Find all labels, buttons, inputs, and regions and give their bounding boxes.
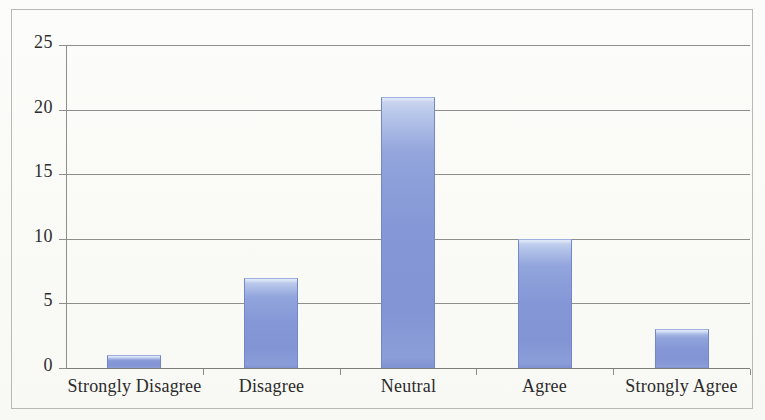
bar-strongly-agree: [655, 329, 709, 368]
y-tick-label: 25: [0, 32, 53, 53]
y-tick-mark: [59, 110, 66, 111]
y-tick-label: 15: [0, 161, 53, 182]
x-category-label: Strongly Agree: [613, 376, 750, 397]
x-tick-mark: [340, 369, 341, 375]
y-tick-mark: [59, 303, 66, 304]
y-tick-label: 5: [0, 290, 53, 311]
x-tick-mark: [750, 369, 751, 375]
x-category-label: Neutral: [340, 376, 477, 397]
y-tick-mark: [59, 45, 66, 46]
gridline: [66, 368, 750, 369]
x-category-label: Agree: [476, 376, 613, 397]
y-tick-mark: [59, 174, 66, 175]
y-tick-label: 0: [0, 355, 53, 376]
x-tick-mark: [203, 369, 204, 375]
x-tick-mark: [476, 369, 477, 375]
x-tick-mark: [613, 369, 614, 375]
y-tick-label: 10: [0, 226, 53, 247]
bar-neutral: [381, 97, 435, 368]
plot-area: [66, 45, 750, 368]
bar-disagree: [244, 278, 298, 368]
y-tick-mark: [59, 239, 66, 240]
bar-strongly-disagree: [107, 355, 161, 368]
chart-figure: 0510152025 Strongly DisagreeDisagreeNeut…: [0, 0, 765, 420]
x-category-label: Strongly Disagree: [66, 376, 203, 397]
y-tick-mark: [59, 368, 66, 369]
y-tick-label: 20: [0, 97, 53, 118]
bar-agree: [518, 239, 572, 368]
x-category-label: Disagree: [203, 376, 340, 397]
